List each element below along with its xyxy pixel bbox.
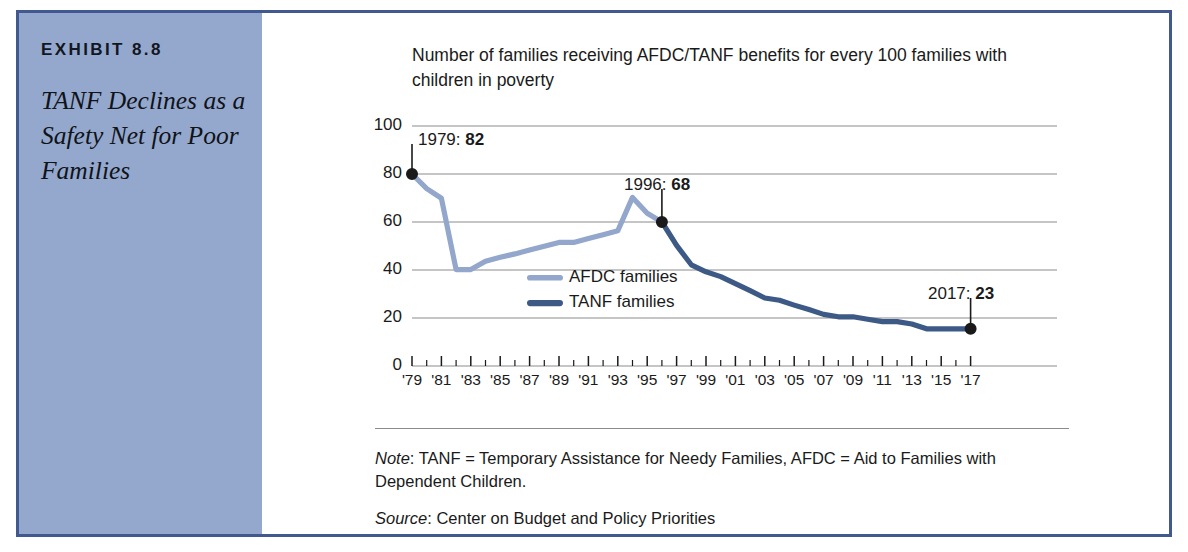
x-axis-ticks [412, 356, 971, 366]
exhibit-figure: EXHIBIT 8.8 TANF Declines as a Safety Ne… [0, 0, 1188, 552]
source-label: Source [375, 509, 427, 527]
series-line-tanf [662, 222, 971, 329]
note-label: Note [375, 449, 410, 467]
callout-1979-value: 82 [465, 130, 484, 149]
sidebar-content: EXHIBIT 8.8 TANF Declines as a Safety Ne… [41, 40, 246, 188]
footer-divider [375, 428, 1069, 429]
y-tick-60: 60 [360, 211, 402, 231]
exhibit-number-label: EXHIBIT 8.8 [41, 40, 246, 60]
callout-markers [407, 144, 976, 334]
callout-1996-value: 68 [671, 175, 690, 194]
chart-note: Note: TANF = Temporary Assistance for Ne… [375, 447, 1075, 493]
callout-label-2017: 2017: 23 [928, 284, 994, 304]
legend-swatch-afdc [527, 275, 563, 281]
exhibit-title: TANF Declines as a Safety Net for Poor F… [41, 83, 246, 188]
legend-swatch-tanf [527, 300, 563, 306]
callout-dot-1996 [657, 217, 667, 227]
chart-source: Source: Center on Budget and Policy Prio… [375, 507, 1075, 530]
callout-1996-year: 1996: [624, 175, 671, 194]
callout-2017-year: 2017: [928, 284, 975, 303]
y-tick-100: 100 [360, 115, 402, 135]
legend-label-tanf: TANF families [569, 292, 674, 312]
legend-label-afdc: AFDC families [569, 267, 678, 287]
source-text: : Center on Budget and Policy Priorities [427, 509, 715, 527]
exhibit-sidebar: EXHIBIT 8.8 TANF Declines as a Safety Ne… [19, 13, 262, 534]
y-tick-40: 40 [360, 259, 402, 279]
callout-dot-2017 [965, 324, 975, 334]
callout-label-1996: 1996: 68 [624, 175, 690, 195]
legend-swatches [527, 275, 563, 306]
y-tick-80: 80 [360, 163, 402, 183]
callout-dot-1979 [407, 169, 417, 179]
note-text: : TANF = Temporary Assistance for Needy … [375, 449, 996, 490]
callout-label-1979: 1979: 82 [418, 130, 484, 150]
exhibit-content: Number of families receiving AFDC/TANF b… [262, 13, 1169, 534]
callout-1979-year: 1979: [418, 130, 465, 149]
y-tick-20: 20 [360, 307, 402, 327]
chart-plot-area: 100 80 60 40 20 0 '79 '81 '83 '85 '87 '8… [262, 13, 1169, 433]
x-tick-17: '17 [954, 371, 988, 389]
callout-2017-value: 23 [975, 284, 994, 303]
